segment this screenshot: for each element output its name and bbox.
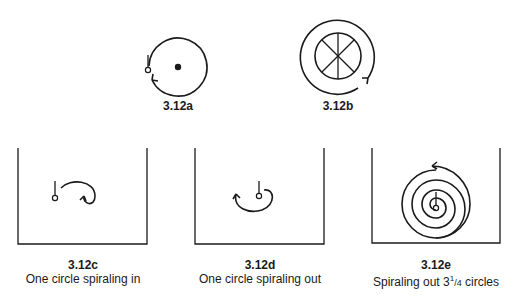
figure-label-3-12b: 3.12b bbox=[308, 99, 368, 113]
caption-3-12e: Spiraling out 31/4 circles bbox=[356, 272, 514, 290]
figure-label-3-12d: 3.12d One circle spiraling out bbox=[180, 258, 340, 286]
figure-label-3-12a: 3.12a bbox=[148, 99, 208, 113]
caption-3-12d: One circle spiraling out bbox=[180, 272, 340, 286]
spiral-e-outer-arc bbox=[0, 0, 514, 298]
figure-label-3-12c: 3.12c One circle spiraling in bbox=[3, 258, 163, 286]
caption-3-12c: One circle spiraling in bbox=[3, 272, 163, 286]
figure-label-3-12e: 3.12e Spiraling out 31/4 circles bbox=[356, 258, 514, 290]
